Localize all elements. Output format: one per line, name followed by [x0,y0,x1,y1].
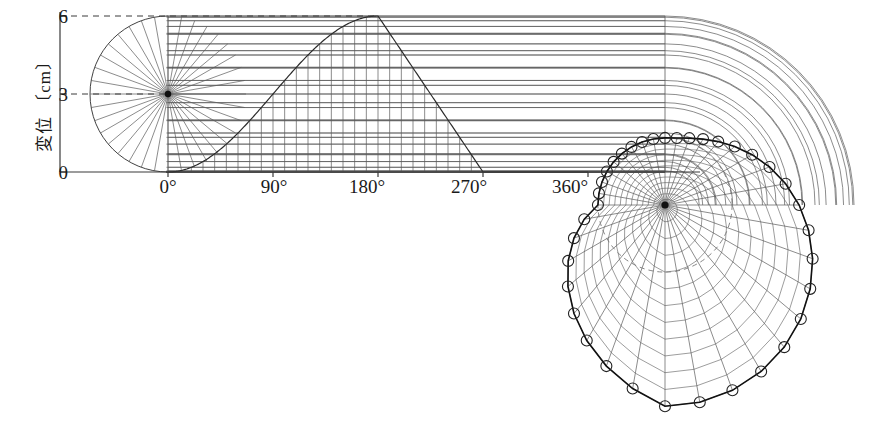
x-tick-180: 180° [337,176,397,198]
x-tick-0: 0° [148,176,188,198]
cam-profile-curve [568,138,813,406]
y-tick-0: 0 [38,162,68,184]
y-axis-label: 変位 〔cm〕 [30,52,55,152]
x-tick-90: 90° [249,176,299,198]
y-tick-6: 6 [38,6,68,28]
figure-canvas [0,0,893,437]
transfer-arcs-to-polar [665,16,854,205]
axis-lines [60,12,700,177]
x-tick-270: 270° [439,176,499,198]
x-tick-360: 360° [540,176,600,198]
cam-displacement-diagram: 6 3 0 変位 〔cm〕 0° 90° 180° 270° 360° [0,0,893,437]
